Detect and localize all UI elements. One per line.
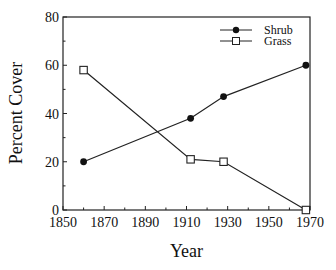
y-axis: 020406080	[45, 10, 67, 218]
x-tick-label: 1850	[49, 215, 77, 230]
grass-line	[84, 70, 306, 210]
y-tick-label: 20	[45, 155, 59, 170]
x-tick-label: 1970	[296, 215, 324, 230]
x-tick-label: 1950	[255, 215, 283, 230]
grass-point-icon	[80, 66, 87, 73]
grass-point-icon	[220, 158, 227, 165]
legend-grass-label: Grass	[264, 34, 292, 48]
grass-point-icon	[302, 206, 309, 213]
y-axis-title: Percent Cover	[6, 62, 26, 164]
y-tick-label: 80	[45, 10, 59, 25]
x-tick-label: 1910	[173, 215, 201, 230]
shrub-point-icon	[187, 115, 194, 122]
series-layer	[80, 62, 310, 214]
line-chart: 020406080 1850187018901910193019501970 Y…	[0, 0, 336, 270]
legend-grass-marker-icon	[233, 38, 240, 45]
x-tick-label: 1870	[90, 215, 118, 230]
shrub-line	[84, 65, 306, 162]
x-tick-label: 1930	[214, 215, 242, 230]
y-tick-label: 60	[45, 58, 59, 73]
shrub-point-icon	[80, 158, 87, 165]
y-tick-label: 40	[45, 107, 59, 122]
legend-shrub-marker-icon	[233, 27, 239, 33]
shrub-point-icon	[302, 62, 309, 69]
grass-point-icon	[187, 156, 194, 163]
x-tick-label: 1890	[131, 215, 159, 230]
x-axis-title: Year	[170, 241, 203, 261]
shrub-point-icon	[220, 93, 227, 100]
legend: Shrub Grass	[220, 23, 293, 48]
